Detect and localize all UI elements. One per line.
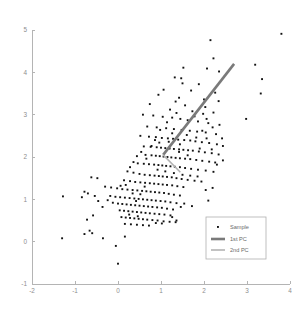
sample-point	[213, 112, 215, 114]
sample-point	[207, 122, 209, 124]
sample-point	[96, 177, 98, 179]
sample-point	[124, 236, 126, 238]
sample-point	[146, 199, 148, 201]
sample-point	[157, 164, 159, 166]
sample-point	[140, 212, 142, 214]
sample-point	[198, 83, 200, 85]
sample-point	[157, 220, 159, 222]
sample-point	[137, 162, 139, 164]
sample-point	[168, 193, 170, 195]
sample-point	[149, 174, 151, 176]
sample-point	[136, 155, 138, 157]
x-tick-label: 4	[288, 287, 292, 294]
sample-point	[181, 178, 183, 180]
sample-point	[84, 233, 86, 235]
sample-point	[135, 200, 137, 202]
sample-point	[154, 191, 156, 193]
sample-point	[154, 213, 156, 215]
sample-point	[141, 190, 143, 192]
sample-point	[161, 137, 163, 139]
sample-point	[61, 237, 63, 239]
sample-point	[191, 110, 193, 112]
sample-point	[142, 224, 144, 226]
sample-point	[133, 198, 135, 200]
sample-point	[158, 213, 160, 215]
sample-point	[200, 181, 202, 183]
pca-scatter-figure: -1012345 -2-101234 Sample1st PC2nd PC	[0, 0, 307, 312]
sample-point	[146, 219, 148, 221]
legend-label: Sample	[230, 224, 249, 230]
sample-point	[214, 162, 216, 164]
sample-point	[180, 77, 182, 79]
sample-point	[210, 39, 212, 41]
sample-point	[154, 175, 156, 177]
sample-point	[87, 192, 89, 194]
sample-point	[148, 225, 150, 227]
sample-point	[138, 198, 140, 200]
sample-point	[62, 195, 64, 197]
sample-point	[260, 93, 262, 95]
scatter-plot-canvas: -1012345 -2-101234 Sample1st PC2nd PC	[0, 0, 307, 312]
sample-point	[214, 92, 216, 94]
sample-point	[120, 185, 122, 187]
sample-point	[167, 137, 169, 139]
x-tick-label: 0	[116, 287, 120, 294]
sample-point	[189, 175, 191, 177]
sample-point	[143, 205, 145, 207]
sample-point	[205, 189, 207, 191]
sample-point	[189, 140, 191, 142]
sample-point	[208, 161, 210, 163]
sample-point	[139, 205, 141, 207]
sample-point	[191, 205, 193, 207]
sample-point	[197, 169, 199, 171]
sample-point	[195, 159, 197, 161]
sample-point	[213, 57, 215, 59]
sample-point	[144, 174, 146, 176]
sample-point	[205, 132, 207, 134]
sample-point	[142, 114, 144, 116]
sample-point	[178, 148, 180, 150]
sample-point	[168, 141, 170, 143]
sample-point	[170, 156, 172, 158]
sample-point	[151, 145, 153, 147]
sample-point	[173, 172, 175, 174]
legend-label: 2nd PC	[230, 247, 249, 253]
sample-point	[129, 217, 131, 219]
x-tick-label: 3	[245, 287, 249, 294]
sample-point	[164, 201, 166, 203]
sample-point	[155, 200, 157, 202]
sample-point	[132, 189, 134, 191]
sample-point	[89, 230, 91, 232]
sample-point	[127, 170, 129, 172]
sample-point	[133, 161, 135, 163]
sample-point	[112, 202, 114, 204]
sample-point	[187, 179, 189, 181]
sample-point	[154, 139, 156, 141]
sample-point	[183, 139, 185, 141]
sample-point	[172, 209, 174, 211]
sample-point	[198, 151, 200, 153]
sample-point	[180, 206, 182, 208]
sample-point	[164, 170, 166, 172]
sample-point	[151, 206, 153, 208]
sample-point	[215, 133, 217, 135]
figure-background	[0, 0, 307, 312]
sample-point	[132, 211, 134, 213]
legend-sample-marker	[217, 226, 219, 228]
sample-point	[134, 204, 136, 206]
sample-point	[159, 129, 161, 131]
sample-point	[171, 184, 173, 186]
sample-point	[148, 136, 150, 138]
sample-point	[150, 191, 152, 193]
sample-point	[206, 137, 208, 139]
sample-point	[132, 192, 134, 194]
sample-point	[161, 223, 163, 225]
sample-point	[182, 149, 184, 151]
sample-point	[204, 106, 206, 108]
sample-point	[163, 192, 165, 194]
sample-point	[166, 121, 168, 123]
sample-point	[110, 187, 112, 189]
sample-point	[212, 187, 214, 189]
sample-point	[155, 155, 157, 157]
sample-point	[195, 137, 197, 139]
